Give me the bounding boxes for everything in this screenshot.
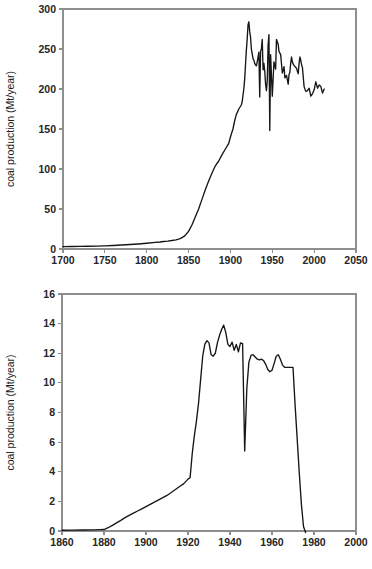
chart-svg-1: 0246810121416186018801900192019401960198… (0, 285, 372, 569)
coal-production-figure: 0501001502002503001700175018001850190019… (0, 0, 372, 569)
x-tick-label: 1800 (135, 254, 159, 266)
y-tick-label: 0 (49, 525, 55, 537)
x-tick-label: 2000 (344, 536, 368, 548)
x-tick-label: 1900 (219, 254, 243, 266)
y-tick-label: 8 (49, 406, 55, 418)
y-tick-label: 16 (43, 288, 55, 300)
y-tick-label: 12 (43, 347, 55, 359)
chart-panel-bottom: 0246810121416186018801900192019401960198… (0, 285, 372, 569)
y-tick-label: 300 (38, 3, 56, 15)
x-tick-label: 1940 (218, 536, 242, 548)
x-tick-label: 1960 (260, 536, 284, 548)
plot-frame (62, 294, 356, 531)
chart-svg-0: 0501001502002503001700175018001850190019… (0, 0, 372, 285)
y-tick-label: 200 (38, 83, 56, 95)
y-tick-label: 4 (49, 465, 55, 477)
x-tick-label: 1980 (302, 536, 326, 548)
y-tick-label: 50 (44, 203, 56, 215)
x-tick-label: 1950 (261, 254, 285, 266)
x-tick-label: 2050 (344, 254, 368, 266)
y-tick-label: 14 (43, 317, 55, 329)
series-line-0 (63, 22, 324, 247)
series-line-0 (62, 325, 306, 532)
y-tick-label: 0 (50, 243, 56, 255)
y-axis-title: coal production (Mt/year) (4, 354, 16, 470)
x-tick-label: 1860 (50, 536, 74, 548)
x-tick-label: 2000 (302, 254, 326, 266)
x-tick-label: 1850 (177, 254, 201, 266)
y-tick-label: 100 (38, 163, 56, 175)
y-tick-label: 2 (49, 495, 55, 507)
x-tick-label: 1880 (92, 536, 116, 548)
plot-frame (63, 9, 356, 249)
x-tick-label: 1700 (51, 254, 75, 266)
y-tick-label: 250 (38, 43, 56, 55)
chart-panel-top: 0501001502002503001700175018001850190019… (0, 0, 372, 285)
y-tick-label: 10 (43, 376, 55, 388)
y-tick-label: 6 (49, 436, 55, 448)
x-tick-label: 1920 (176, 536, 200, 548)
y-axis-title: coal production (Mt/year) (4, 71, 16, 187)
x-tick-label: 1900 (134, 536, 158, 548)
y-tick-label: 150 (38, 123, 56, 135)
x-tick-label: 1750 (93, 254, 117, 266)
